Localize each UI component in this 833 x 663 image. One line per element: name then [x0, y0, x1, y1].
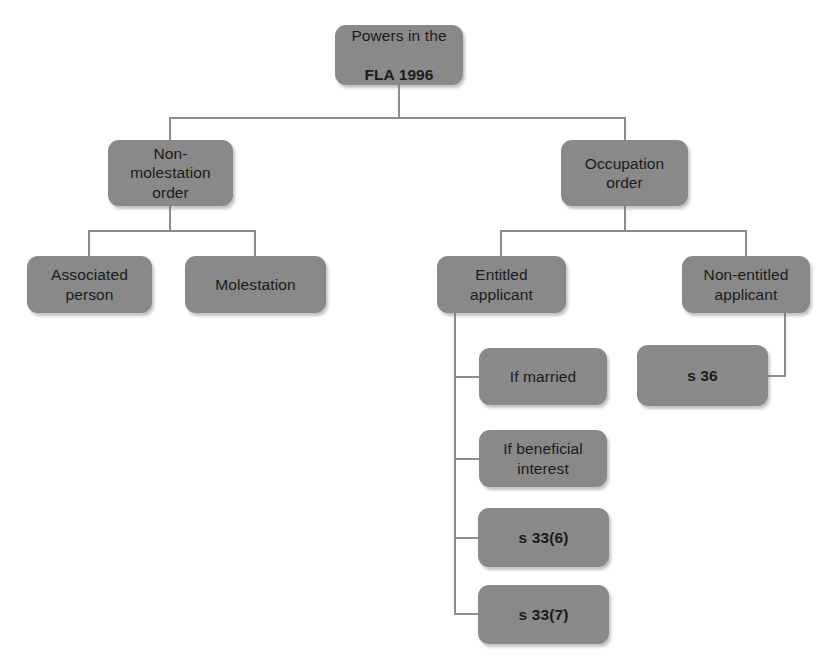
node-label-molestation: Molestation	[191, 275, 320, 294]
node-s-33-7[interactable]: s 33(7)	[478, 585, 609, 644]
node-occupation-order[interactable]: Occupation order	[561, 140, 688, 206]
node-label-s-33-7: s 33(7)	[484, 605, 603, 624]
node-non-entitled-applicant[interactable]: Non-entitled applicant	[682, 256, 810, 313]
flowchart-canvas: Powers in the FLA 1996 Non- molestation …	[0, 0, 833, 663]
node-label-s-36: s 36	[643, 366, 762, 385]
edge-nonmolestation-to-children	[89, 206, 255, 256]
node-s-33-6[interactable]: s 33(6)	[478, 508, 609, 567]
node-label-occupation-order: Occupation order	[567, 154, 682, 192]
node-entitled-applicant[interactable]: Entitled applicant	[437, 256, 566, 313]
node-label-powers-fla-1996: Powers in the FLA 1996	[341, 7, 457, 103]
node-label-entitled-applicant: Entitled applicant	[443, 265, 560, 303]
node-associated-person[interactable]: Associated person	[27, 256, 152, 313]
node-label-if-married: If married	[485, 367, 601, 386]
node-label-non-entitled-applicant: Non-entitled applicant	[688, 265, 804, 303]
powers-line-1: Powers in the	[341, 26, 457, 45]
powers-line-2: FLA 1996	[341, 65, 457, 84]
node-powers-fla-1996[interactable]: Powers in the FLA 1996	[335, 25, 463, 85]
edge-nonentitled-to-s36	[768, 313, 785, 376]
node-label-associated-person: Associated person	[33, 265, 146, 303]
node-label-s-33-6: s 33(6)	[484, 528, 603, 547]
node-label-non-molestation-order: Non- molestation order	[114, 144, 227, 202]
edge-occupation-to-children	[501, 206, 746, 256]
node-non-molestation-order[interactable]: Non- molestation order	[108, 140, 233, 206]
node-molestation[interactable]: Molestation	[185, 256, 326, 313]
node-label-if-beneficial-interest: If beneficial interest	[485, 439, 601, 477]
node-if-married[interactable]: If married	[479, 348, 607, 405]
node-s-36[interactable]: s 36	[637, 345, 768, 406]
node-if-beneficial-interest[interactable]: If beneficial interest	[479, 430, 607, 487]
